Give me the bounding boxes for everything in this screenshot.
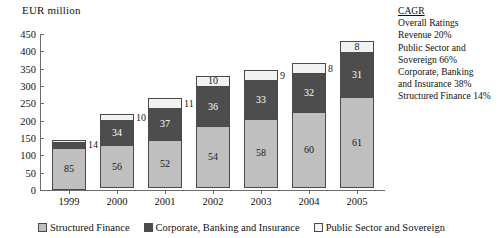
bar-segment-value: 10 bbox=[136, 113, 146, 123]
bar-segment-sf[interactable]: 56 bbox=[100, 145, 134, 188]
x-axis-tick-mark bbox=[69, 190, 70, 194]
x-axis-tick-label: 2000 bbox=[107, 196, 128, 207]
bar-2003[interactable]: 93358 bbox=[244, 70, 278, 190]
bar-segment-sf[interactable]: 58 bbox=[244, 119, 278, 188]
legend-swatch-icon bbox=[38, 223, 47, 232]
cagr-annotation: CAGR Overall RatingsRevenue 20%Public Se… bbox=[398, 5, 502, 103]
legend-item-label: Corporate, Banking and Insurance bbox=[156, 222, 300, 233]
bar-segment-value: 60 bbox=[304, 145, 314, 155]
bar-segment-value: 8 bbox=[355, 42, 360, 52]
bar-2001[interactable]: 113752 bbox=[148, 98, 182, 190]
cagr-line: Structured Finance 14% bbox=[398, 90, 502, 102]
bar-segment-sf[interactable]: 85 bbox=[52, 148, 86, 191]
bar-segment-sf[interactable]: 61 bbox=[340, 97, 374, 188]
bar-segment-value: 36 bbox=[208, 102, 218, 112]
bar-2005[interactable]: 83161 bbox=[340, 41, 374, 190]
bar-segment-value: 37 bbox=[160, 119, 170, 129]
bar-segment-value: 11 bbox=[184, 99, 194, 109]
legend-swatch-icon bbox=[144, 223, 153, 232]
y-axis-tick-label: 400 bbox=[20, 46, 36, 57]
legend-item-cbi[interactable]: Corporate, Banking and Insurance bbox=[144, 222, 300, 233]
legend-item-sf[interactable]: Structured Finance bbox=[38, 222, 130, 233]
bar-segment-cbi[interactable]: 31 bbox=[340, 52, 374, 98]
plot-area: 1485103456113752103654933588326083161 bbox=[40, 34, 380, 190]
y-axis-tick-label: 350 bbox=[20, 63, 36, 74]
bar-segment-sf[interactable]: 60 bbox=[292, 112, 326, 188]
x-axis-tick-mark bbox=[117, 190, 118, 194]
x-axis-tick-label: 2001 bbox=[155, 196, 176, 207]
bar-segment-value: 58 bbox=[256, 148, 266, 158]
y-axis-tick-label: 300 bbox=[20, 81, 36, 92]
cagr-line: Sovereign 66% bbox=[398, 54, 502, 66]
y-axis-labels: 450400350300250200150100500 bbox=[0, 0, 36, 238]
bar-segment-value: 8 bbox=[328, 64, 333, 74]
x-axis-tick-label: 2002 bbox=[203, 196, 224, 207]
y-axis-tick-label: 0 bbox=[31, 185, 36, 196]
x-axis-tick-mark bbox=[213, 190, 214, 194]
cagr-line: Corporate, Banking bbox=[398, 66, 502, 78]
bar-segment-cbi[interactable]: 37 bbox=[148, 108, 182, 142]
bar-segment-value: 52 bbox=[160, 159, 170, 169]
x-axis-tick-label: 2005 bbox=[347, 196, 368, 207]
bar-segment-cbi[interactable]: 33 bbox=[244, 80, 278, 119]
y-axis-tick-label: 200 bbox=[20, 115, 36, 126]
bar-segment-value: 33 bbox=[256, 95, 266, 105]
bar-segment-value: 56 bbox=[112, 162, 122, 172]
x-axis-tick-mark bbox=[261, 190, 262, 194]
bar-segment-value: 34 bbox=[112, 128, 122, 138]
bar-segment-value: 10 bbox=[208, 76, 218, 86]
legend-swatch-icon bbox=[314, 223, 323, 232]
cagr-line: Overall Ratings bbox=[398, 17, 502, 29]
y-axis-tick-label: 50 bbox=[26, 167, 37, 178]
bar-segment-cbi[interactable]: 36 bbox=[196, 86, 230, 127]
chart-legend: Structured FinanceCorporate, Banking and… bbox=[38, 222, 478, 233]
bar-segment-value: 31 bbox=[352, 70, 362, 80]
x-axis-tick-label: 2004 bbox=[299, 196, 320, 207]
cagr-line: Public Sector and bbox=[398, 42, 502, 54]
x-axis-tick-mark bbox=[309, 190, 310, 194]
bar-2004[interactable]: 83260 bbox=[292, 63, 326, 190]
legend-item-label: Structured Finance bbox=[50, 222, 130, 233]
x-axis-tick-label: 1999 bbox=[59, 196, 80, 207]
bar-segment-value: 61 bbox=[352, 138, 362, 148]
cagr-lines: Overall RatingsRevenue 20%Public Sector … bbox=[398, 17, 502, 102]
legend-item-pss[interactable]: Public Sector and Sovereign bbox=[314, 222, 445, 233]
y-axis-tick-label: 450 bbox=[20, 29, 36, 40]
x-axis-tick-mark bbox=[165, 190, 166, 194]
bar-segment-value: 85 bbox=[64, 164, 74, 174]
chart-page: EUR million 450400350300250200150100500 … bbox=[0, 0, 502, 238]
legend-item-label: Public Sector and Sovereign bbox=[326, 222, 445, 233]
cagr-title: CAGR bbox=[398, 5, 502, 17]
cagr-line: Revenue 20% bbox=[398, 29, 502, 41]
y-axis-tick-label: 150 bbox=[20, 133, 36, 144]
bar-segment-cbi[interactable]: 34 bbox=[100, 120, 134, 146]
bar-2002[interactable]: 103654 bbox=[196, 76, 230, 190]
y-axis-tick-label: 250 bbox=[20, 98, 36, 109]
bar-2000[interactable]: 103456 bbox=[100, 114, 134, 190]
bar-segment-value: 14 bbox=[88, 140, 98, 150]
bar-segment-sf[interactable]: 54 bbox=[196, 126, 230, 188]
bar-segment-value: 54 bbox=[208, 152, 218, 162]
bar-segment-sf[interactable]: 52 bbox=[148, 140, 182, 188]
x-axis-tick-label: 2003 bbox=[251, 196, 272, 207]
cagr-line: and Insurance 38% bbox=[398, 78, 502, 90]
bar-1999[interactable]: 1485 bbox=[52, 140, 86, 190]
bar-segment-cbi[interactable]: 32 bbox=[292, 73, 326, 113]
bar-segment-value: 9 bbox=[280, 71, 285, 81]
y-axis-tick-label: 100 bbox=[20, 150, 36, 161]
x-axis-tick-mark bbox=[357, 190, 358, 194]
bar-segment-value: 32 bbox=[304, 88, 314, 98]
